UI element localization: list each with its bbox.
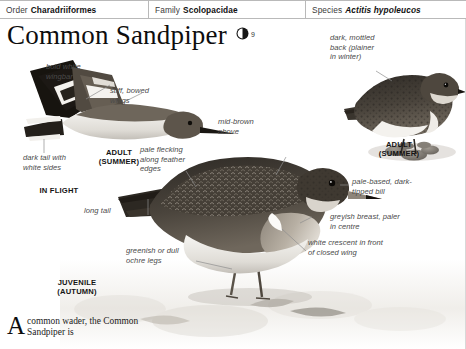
leader-mid-brown	[276, 157, 286, 175]
taxonomy-species: Species Actitis hypoleucos	[305, 1, 466, 18]
annotation-dark-tail-white-sides: dark tail with white sides	[23, 153, 66, 172]
taxonomy-family: Family Scolopacidae	[148, 1, 305, 18]
leg-right	[258, 267, 262, 297]
annotation-greenish-legs: greenish or dull ochre legs	[126, 246, 179, 265]
annotation-stiff-bowed-wings: stiff, bowed wings	[110, 86, 149, 105]
annotation-bold-white-wingbar: bold white wingbar	[46, 62, 81, 81]
speaker-icon[interactable]	[236, 26, 249, 44]
species-label: Species	[312, 5, 342, 15]
page-title: Common Sandpiper 9	[7, 22, 255, 49]
family-value: Scolopacidae	[183, 5, 238, 15]
leader-white-crescent	[282, 229, 306, 251]
species-value: Actitis hypoleucos	[345, 5, 421, 15]
order-label: Order	[6, 5, 28, 15]
annotation-dark-mottled-back: dark, mottled back (plainer in winter)	[330, 33, 375, 62]
annotation-pale-flecking: pale flecking along feather edges	[140, 145, 185, 174]
species-description: Acommon wader, the Common Sandpiper is	[7, 316, 177, 339]
family-label: Family	[155, 5, 180, 15]
leader-legs	[196, 261, 232, 269]
species-common-name: Common Sandpiper	[7, 22, 227, 49]
annotation-long-tail: long tail	[84, 206, 111, 216]
taxonomy-order: Order Charadriiformes	[0, 1, 148, 18]
leader-wingbar	[86, 85, 110, 99]
leg-left	[231, 267, 236, 295]
body-paragraph: common wader, the Common Sandpiper is	[27, 316, 138, 337]
leader-mottled-back	[376, 71, 392, 81]
order-value: Charadriiformes	[31, 5, 97, 15]
field-guide-page: Order Charadriiformes Family Scolopacida…	[0, 0, 466, 349]
caption-adult-summer: ADULT (SUMMER)	[372, 140, 426, 159]
caption-in-flight-adult-summer: ADULT (SUMMER)	[96, 148, 142, 167]
annotation-pale-based-bill: pale-based, dark- tipped bill	[352, 177, 412, 196]
sound-track-number: 9	[251, 31, 255, 38]
caption-juvenile-autumn: JUVENILE (AUTUMN)	[44, 278, 110, 297]
leader-greyish-breast	[300, 217, 312, 223]
taxonomy-header: Order Charadriiformes Family Scolopacida…	[0, 0, 466, 19]
leader-pale-flecking	[186, 171, 196, 187]
body-dropcap: A	[7, 316, 27, 336]
annotation-mid-brown-above: mid-brown above	[218, 117, 254, 136]
annotation-white-crescent: white crescent in front of closed wing	[308, 238, 383, 257]
annotation-greyish-breast: greyish breast, paler in centre	[330, 212, 400, 231]
caption-in-flight: IN FLIGHT	[26, 186, 92, 195]
